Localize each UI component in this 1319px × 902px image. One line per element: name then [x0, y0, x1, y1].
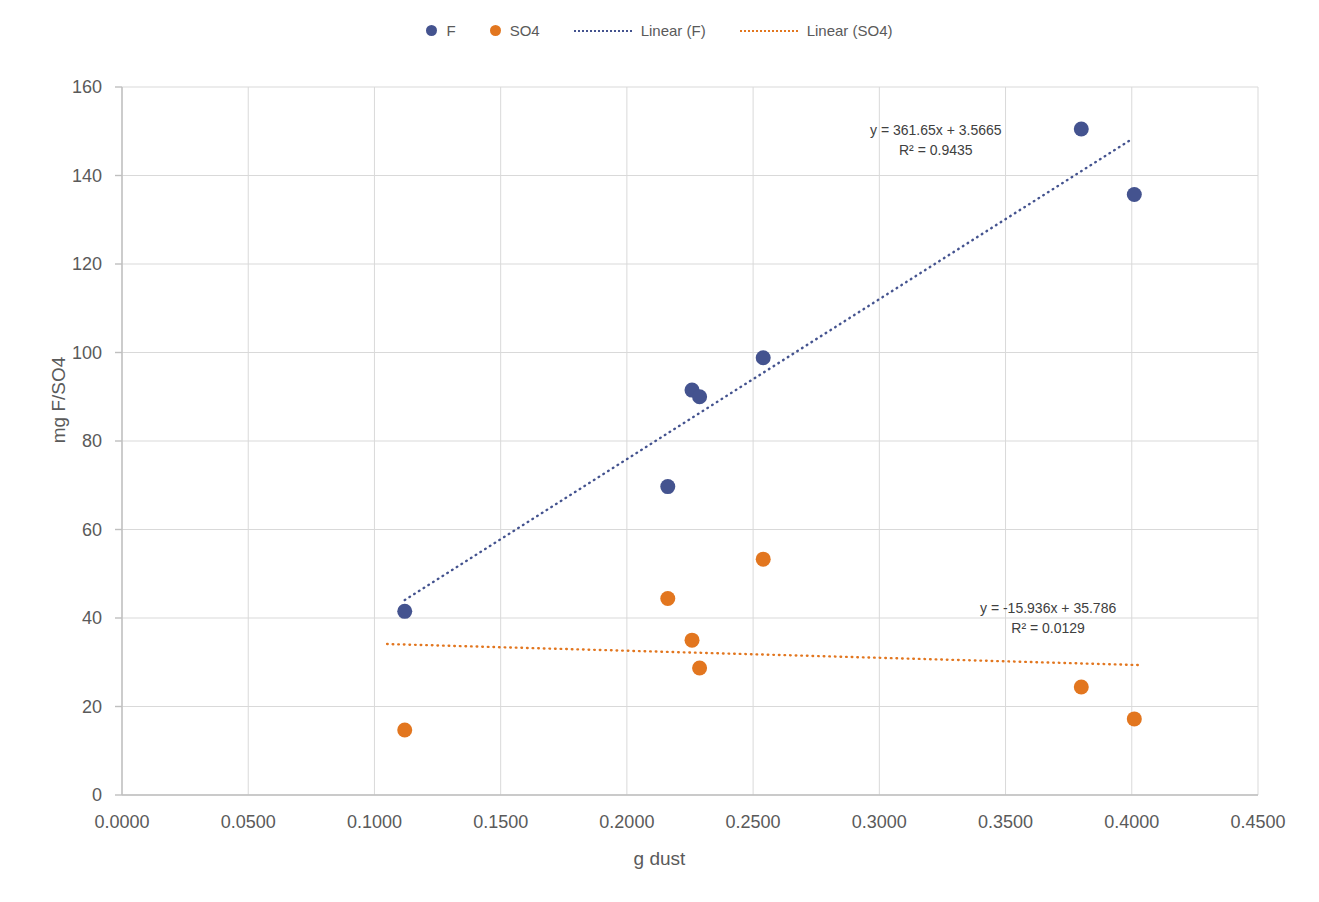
x-tick-label: 0.0500: [221, 812, 276, 833]
trendline-linear-so4: [387, 644, 1139, 665]
data-point-so4[interactable]: [660, 591, 675, 606]
y-tick-label: 140: [30, 165, 102, 186]
data-point-f[interactable]: [660, 479, 675, 494]
data-point-f[interactable]: [1127, 187, 1142, 202]
data-point-f[interactable]: [756, 350, 771, 365]
y-tick-label: 60: [30, 519, 102, 540]
x-tick-label: 0.2000: [599, 812, 654, 833]
trendline-equation-label: y = 361.65x + 3.5665R² = 0.9435: [870, 120, 1002, 161]
y-tick-label: 20: [30, 696, 102, 717]
y-tick-label: 40: [30, 608, 102, 629]
y-tick-label: 0: [30, 785, 102, 806]
data-point-so4[interactable]: [692, 661, 707, 676]
r-squared-line: R² = 0.0129: [980, 618, 1116, 638]
data-point-so4[interactable]: [685, 633, 700, 648]
data-point-so4[interactable]: [1127, 711, 1142, 726]
x-tick-label: 0.0000: [94, 812, 149, 833]
y-tick-label: 120: [30, 254, 102, 275]
trendline-equation-label: y = -15.936x + 35.786R² = 0.0129: [980, 598, 1116, 639]
x-tick-label: 0.1000: [347, 812, 402, 833]
x-axis-title: g dust: [0, 848, 1319, 870]
x-tick-label: 0.2500: [726, 812, 781, 833]
x-tick-label: 0.4500: [1230, 812, 1285, 833]
r-squared-line: R² = 0.9435: [870, 140, 1002, 160]
x-tick-label: 0.1500: [473, 812, 528, 833]
data-point-so4[interactable]: [1074, 680, 1089, 695]
x-tick-label: 0.4000: [1104, 812, 1159, 833]
equation-line: y = -15.936x + 35.786: [980, 598, 1116, 618]
x-tick-label: 0.3500: [978, 812, 1033, 833]
y-tick-label: 100: [30, 342, 102, 363]
data-point-f[interactable]: [1074, 122, 1089, 137]
data-point-so4[interactable]: [397, 722, 412, 737]
y-tick-label: 160: [30, 77, 102, 98]
scatter-chart: FSO4Linear (F)Linear (SO4) mg F/SO4 g du…: [0, 0, 1319, 902]
x-tick-label: 0.3000: [852, 812, 907, 833]
equation-line: y = 361.65x + 3.5665: [870, 120, 1002, 140]
plot-area: [0, 0, 1319, 902]
y-tick-label: 80: [30, 431, 102, 452]
data-point-f[interactable]: [692, 389, 707, 404]
trendline-linear-f: [405, 139, 1132, 600]
data-point-so4[interactable]: [756, 552, 771, 567]
data-point-f[interactable]: [397, 604, 412, 619]
